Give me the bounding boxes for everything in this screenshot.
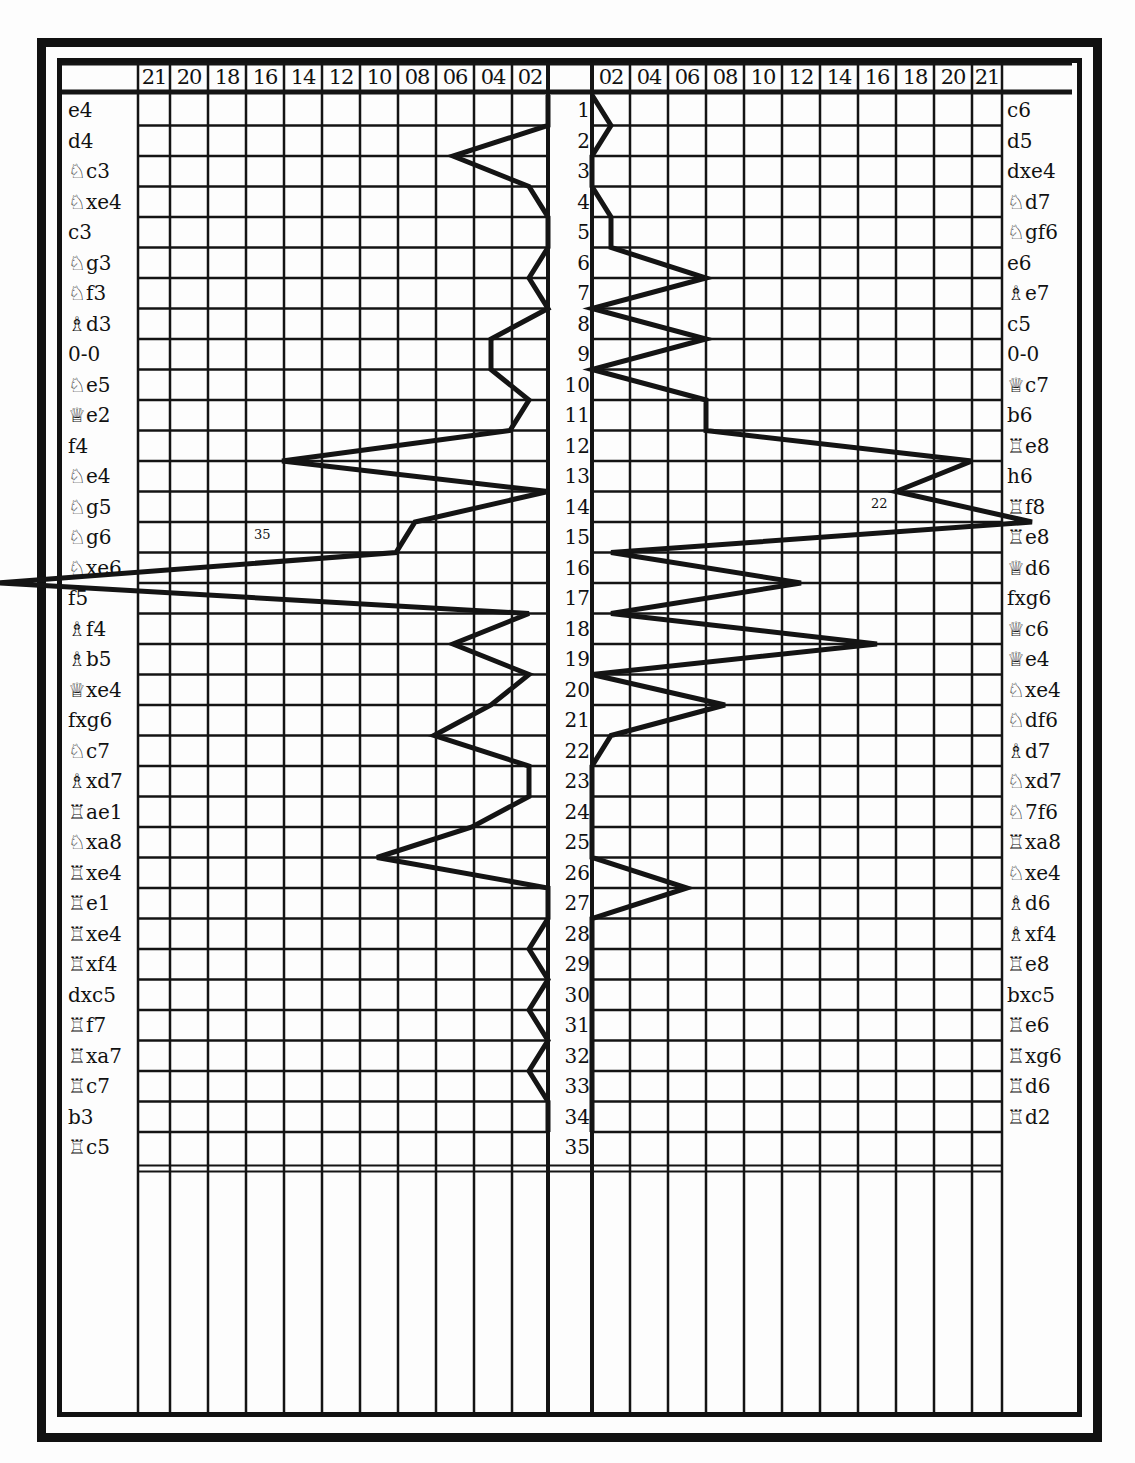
right-axis-tick: 04 [631,64,667,90]
move-number: 6 [550,248,590,278]
white-move-label: ♘xe4 [68,187,122,217]
white-move-label: ♗d3 [68,309,112,339]
move-number: 24 [550,797,590,827]
black-move-label: ♗d6 [1007,888,1051,918]
left-offscale-annotation: 35 [254,527,271,542]
move-number: 19 [550,644,590,674]
move-number: 31 [550,1010,590,1040]
left-axis-tick: 06 [437,64,473,90]
white-move-label: ♖f7 [68,1010,106,1040]
white-move-label: ♘c3 [68,156,110,186]
black-move-label: e6 [1007,248,1032,278]
black-move-label: ♕c6 [1007,614,1049,644]
white-move-label: ♘g6 [68,522,112,552]
left-axis-tick: 02 [513,64,547,90]
black-move-label: ♘gf6 [1007,217,1058,247]
white-move-label: d4 [68,126,94,156]
right-axis-tick: 08 [707,64,743,90]
white-move-label: f4 [68,431,88,461]
white-move-label: ♗b5 [68,644,112,674]
black-move-label: ♖e8 [1007,522,1050,552]
move-number: 16 [550,553,590,583]
white-move-label: 0-0 [68,339,100,369]
white-move-label: ♖c7 [68,1071,110,1101]
move-number: 10 [550,370,590,400]
right-axis-tick: 18 [897,64,933,90]
move-number: 33 [550,1071,590,1101]
left-axis-tick: 04 [475,64,511,90]
move-number: 26 [550,858,590,888]
black-move-label: ♖xa8 [1007,827,1061,857]
move-number: 23 [550,766,590,796]
move-number: 17 [550,583,590,613]
move-number: 5 [550,217,590,247]
white-move-label: ♗f4 [68,614,106,644]
right-axis-tick: 20 [935,64,971,90]
left-axis-tick: 16 [247,64,283,90]
white-move-label: ♗xd7 [68,766,123,796]
left-axis-tick: 08 [399,64,435,90]
white-move-label: e4 [68,95,93,125]
white-move-label: ♖e1 [68,888,111,918]
black-move-label: ♘xd7 [1007,766,1062,796]
left-axis-tick: 18 [209,64,245,90]
white-move-label: ♘e4 [68,461,111,491]
black-move-label: ♖e6 [1007,1010,1050,1040]
white-move-label: ♘c7 [68,736,110,766]
right-axis-tick: 10 [745,64,781,90]
black-move-label: ♖d2 [1007,1102,1051,1132]
black-move-label: ♘d7 [1007,187,1051,217]
right-offscale-annotation: 22 [871,496,888,511]
black-move-label: c5 [1007,309,1031,339]
move-number: 14 [550,492,590,522]
white-move-label: f5 [68,583,88,613]
black-move-label: ♕c7 [1007,370,1049,400]
black-move-label: bxc5 [1007,980,1055,1010]
move-number: 8 [550,309,590,339]
move-number: 34 [550,1102,590,1132]
move-number: 30 [550,980,590,1010]
black-move-label: ♕d6 [1007,553,1051,583]
move-number: 3 [550,156,590,186]
right-axis-tick: 16 [859,64,895,90]
black-move-label: ♘xe4 [1007,858,1061,888]
white-move-label: b3 [68,1102,94,1132]
right-axis-tick: 14 [821,64,857,90]
move-number: 4 [550,187,590,217]
move-number: 29 [550,949,590,979]
black-move-label: ♘xe4 [1007,675,1061,705]
white-move-label: ♘f3 [68,278,106,308]
black-move-label: ♕e4 [1007,644,1050,674]
white-move-label: ♖xf4 [68,949,117,979]
white-move-label: fxg6 [68,705,112,735]
move-number: 7 [550,278,590,308]
move-number: 20 [550,675,590,705]
white-move-label: ♖xe4 [68,919,122,949]
white-move-label: ♖xa7 [68,1041,122,1071]
move-number: 13 [550,461,590,491]
right-axis-tick: 21 [973,64,1001,90]
move-number: 2 [550,126,590,156]
black-move-label: h6 [1007,461,1033,491]
black-move-label: 0-0 [1007,339,1039,369]
white-move-label: ♘g3 [68,248,112,278]
left-axis-tick: 20 [171,64,207,90]
move-number: 28 [550,919,590,949]
white-move-label: ♘xe6 [68,553,122,583]
white-move-label: ♕e2 [68,400,111,430]
white-move-label: ♖ae1 [68,797,122,827]
move-number: 27 [550,888,590,918]
white-move-label: ♘g5 [68,492,112,522]
black-move-label: ♖f8 [1007,492,1045,522]
move-number: 25 [550,827,590,857]
black-move-label: ♘7f6 [1007,797,1058,827]
move-number: 11 [550,400,590,430]
white-move-label: c3 [68,217,92,247]
white-move-label: dxc5 [68,980,116,1010]
black-move-label: ♗xf4 [1007,919,1056,949]
move-number: 12 [550,431,590,461]
move-number: 32 [550,1041,590,1071]
move-number: 21 [550,705,590,735]
black-move-label: ♖d6 [1007,1071,1051,1101]
move-number: 22 [550,736,590,766]
